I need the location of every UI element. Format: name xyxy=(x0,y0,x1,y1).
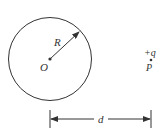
point-charge: +q P xyxy=(144,47,156,73)
point-label: P xyxy=(145,62,152,73)
distance-dimension: d xyxy=(50,110,151,128)
radius-label: R xyxy=(53,36,61,48)
charge-point xyxy=(150,59,153,62)
distance-label: d xyxy=(98,113,104,125)
diagram-canvas: R O +q P d xyxy=(0,0,163,139)
charge-label: +q xyxy=(144,47,156,58)
center-label: O xyxy=(40,61,48,73)
sphere: R O xyxy=(9,18,92,101)
